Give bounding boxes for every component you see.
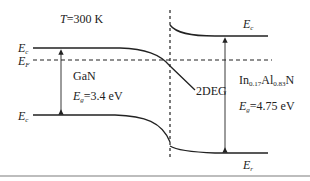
gan-material-label: GaN	[73, 70, 96, 82]
inaln-material-label: In0.17Al0.83N	[239, 74, 294, 88]
inaln-valence-band	[170, 146, 268, 153]
gan-conduction-band	[33, 48, 195, 90]
gan-bandgap-label: Eg=3.4 eV	[73, 90, 123, 104]
left-ef-label: EF	[18, 55, 30, 69]
gan-valence-band	[33, 115, 170, 142]
left-ev-label: Ec	[18, 110, 28, 124]
right-ec-label: Ec	[243, 18, 253, 32]
right-ev-label: Er	[243, 159, 253, 173]
bottom-divider	[0, 175, 310, 177]
inaln-bandgap-label: Eg=4.75 eV	[239, 100, 295, 114]
temperature-label: T=300 K	[60, 13, 103, 25]
band-diagram	[0, 0, 310, 181]
2deg-label: 2DEG	[196, 85, 227, 97]
